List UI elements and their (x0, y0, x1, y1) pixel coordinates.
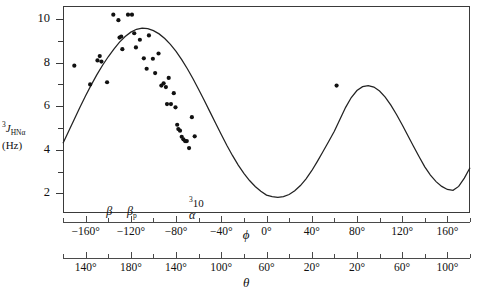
theta-tick-6 (357, 252, 358, 258)
theta-tick-label-4: 60° (258, 262, 274, 274)
phi-tick--120 (131, 216, 132, 222)
plot-frame (63, 6, 470, 213)
theta-minor-tick (199, 254, 200, 258)
y-tick-8 (56, 63, 64, 64)
phi-minor-tick--180 (63, 218, 64, 222)
theta-tick-2 (176, 252, 177, 258)
theta-minor-tick (425, 254, 426, 258)
theta-tick-label-1: 180° (120, 262, 142, 274)
theta-axis-label: θ (243, 276, 249, 289)
phi-tick-160 (447, 216, 448, 222)
phi-minor-tick-100 (380, 218, 381, 222)
phi-axis-label: ϕ (243, 228, 250, 241)
phi-minor-tick-180 (470, 218, 471, 222)
theta-tick-7 (402, 252, 403, 258)
phi-minor-tick--140 (108, 218, 109, 222)
theta-tick-label-5: 20° (304, 262, 320, 274)
theta-tick-label-8: 100° (436, 262, 458, 274)
phi-tick-label--160: −160° (71, 226, 99, 238)
phi-minor-tick-60 (334, 218, 335, 222)
y-tick-label-6: 6 (10, 99, 50, 112)
region-label-2: 310α (189, 196, 204, 222)
region-label-0: β (106, 205, 112, 217)
theta-tick-label-2: 140° (165, 262, 187, 274)
y-tick-6 (56, 106, 64, 107)
theta-tick-label-0: 140° (75, 262, 97, 274)
theta-tick-4 (267, 252, 268, 258)
phi-tick--80 (176, 216, 177, 222)
phi-axis-line (63, 222, 470, 223)
y-minor-tick-3 (58, 172, 64, 173)
y-tick-10 (56, 19, 64, 20)
theta-minor-tick (108, 254, 109, 258)
karplus-curve-figure: 3JHNα(Hz) 246810 ββp310α −160°−120°−80°−… (0, 0, 485, 299)
phi-minor-tick-140 (425, 218, 426, 222)
phi-minor-tick-20 (289, 218, 290, 222)
y-tick-4 (56, 150, 64, 151)
y-tick-label-8: 8 (10, 56, 50, 69)
theta-tick-8 (447, 252, 448, 258)
y-tick-label-4: 4 (10, 143, 50, 156)
theta-minor-tick (470, 254, 471, 258)
theta-tick-label-3: 100° (210, 262, 232, 274)
theta-minor-tick (289, 254, 290, 258)
theta-tick-label-7: 60° (394, 262, 410, 274)
phi-tick-120 (402, 216, 403, 222)
phi-tick--40 (221, 216, 222, 222)
theta-tick-5 (312, 252, 313, 258)
phi-tick-label--120: −120° (117, 226, 145, 238)
y-tick-label-2: 2 (10, 186, 50, 199)
phi-tick-label-40: 40° (304, 226, 320, 238)
theta-tick-label-6: 20° (349, 262, 365, 274)
phi-tick-80 (357, 216, 358, 222)
theta-tick-1 (131, 252, 132, 258)
phi-minor-tick--60 (199, 218, 200, 222)
phi-tick-label--40: −40° (210, 226, 233, 238)
theta-minor-tick (63, 254, 64, 258)
region-label-1: βp (127, 205, 137, 220)
theta-minor-tick (244, 254, 245, 258)
y-tick-2 (56, 193, 64, 194)
phi-minor-tick--20 (244, 218, 245, 222)
phi-tick--160 (86, 216, 87, 222)
phi-tick-label--80: −80° (165, 226, 188, 238)
theta-minor-tick (380, 254, 381, 258)
phi-tick-40 (312, 216, 313, 222)
theta-tick-0 (86, 252, 87, 258)
phi-tick-label-120: 120° (391, 226, 413, 238)
phi-tick-label-80: 80° (349, 226, 365, 238)
y-minor-tick-9 (58, 41, 64, 42)
theta-tick-3 (221, 252, 222, 258)
y-tick-label-10: 10 (10, 12, 50, 25)
phi-minor-tick--100 (153, 218, 154, 222)
phi-tick-label-0: 0° (261, 226, 271, 238)
phi-tick-label-160: 160° (436, 226, 458, 238)
theta-minor-tick (334, 254, 335, 258)
phi-tick-0 (267, 216, 268, 222)
y-minor-tick-7 (58, 84, 64, 85)
y-minor-tick-5 (58, 128, 64, 129)
theta-axis-line (63, 258, 470, 259)
theta-minor-tick (153, 254, 154, 258)
